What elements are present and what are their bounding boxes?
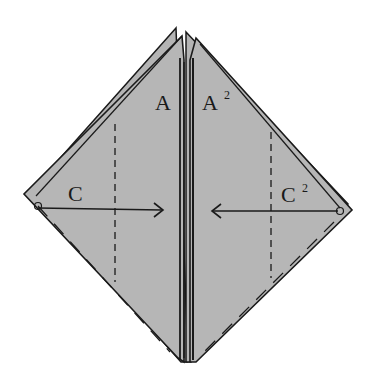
label-c-right-superscript: 2 — [302, 181, 308, 195]
label-c-right: C — [281, 182, 296, 207]
left-flap — [24, 36, 184, 362]
label-a-right: A — [202, 90, 218, 115]
label-c-left: C — [68, 181, 83, 206]
origami-diagram: A A 2 C C 2 — [0, 0, 378, 389]
label-a-right-superscript: 2 — [224, 88, 230, 102]
right-flap — [190, 38, 352, 362]
label-a-left: A — [155, 90, 171, 115]
